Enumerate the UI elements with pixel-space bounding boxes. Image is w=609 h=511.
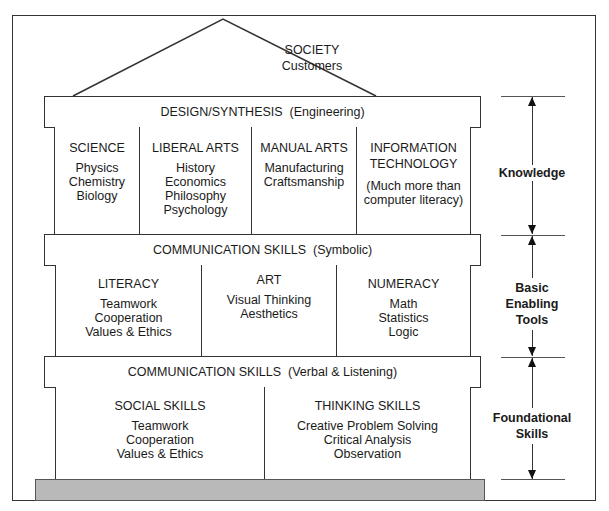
column-item: Teamwork [56, 297, 201, 311]
column-item: Craftsmanship [252, 175, 356, 189]
tools-label: Basic Enabling Tools [482, 278, 582, 330]
communication-symbolic-label: COMMUNICATION SKILLS (Symbolic) [153, 243, 372, 257]
foundation-base [35, 479, 485, 501]
column-item: Cooperation [56, 433, 264, 447]
column-head: LITERACY [56, 277, 201, 291]
knowledge-label: Knowledge [482, 165, 582, 181]
arrow-down-icon [528, 225, 536, 234]
column-item: (Much more than [357, 179, 470, 193]
column-head: SOCIAL SKILLS [56, 399, 264, 413]
column-science: SCIENCE Physics Chemistry Biology [55, 127, 139, 235]
column-head: LIBERAL ARTS [140, 141, 251, 155]
communication-symbolic-bar: COMMUNICATION SKILLS (Symbolic) [44, 234, 481, 266]
column-item: History [140, 161, 251, 175]
column-head: ART [202, 273, 336, 287]
column-head: MANUAL ARTS [252, 141, 356, 155]
arrow-up-icon [528, 236, 536, 245]
roof-subtitle: Customers [232, 59, 392, 74]
column-item: Psychology [140, 203, 251, 217]
column-item: Visual Thinking [202, 293, 336, 307]
column-numeracy: NUMERACY Math Statistics Logic [336, 265, 470, 357]
column-liberal-arts: LIBERAL ARTS History Economics Philosoph… [139, 127, 251, 235]
arrow-up-icon [528, 97, 536, 106]
tools-label-line: Enabling [482, 296, 582, 312]
arrow-down-icon [528, 470, 536, 479]
tick-line [501, 479, 565, 480]
tools-columns: LITERACY Teamwork Cooperation Values & E… [55, 265, 471, 357]
design-synthesis-label: DESIGN/SYNTHESIS (Engineering) [160, 105, 364, 119]
column-item: Economics [140, 175, 251, 189]
column-item: Math [337, 297, 470, 311]
column-manual-arts: MANUAL ARTS Manufacturing Craftsmanship [251, 127, 356, 235]
column-item: Teamwork [56, 419, 264, 433]
column-literacy: LITERACY Teamwork Cooperation Values & E… [56, 265, 201, 357]
column-art: ART Visual Thinking Aesthetics [201, 265, 336, 357]
design-synthesis-bar: DESIGN/SYNTHESIS (Engineering) [44, 96, 481, 128]
column-item: Chemistry [55, 175, 139, 189]
tools-label-line: Basic [482, 280, 582, 296]
roof-title: SOCIETY [232, 43, 392, 58]
column-item: Values & Ethics [56, 447, 264, 461]
column-item: computer literacy) [357, 193, 470, 207]
column-head-line: TECHNOLOGY [357, 157, 470, 171]
column-head-line: INFORMATION [357, 141, 470, 155]
column-head: NUMERACY [337, 277, 470, 291]
column-item: Cooperation [56, 311, 201, 325]
foundational-label-line: Foundational [482, 410, 582, 426]
foundational-label: Foundational Skills [482, 408, 582, 444]
column-item: Aesthetics [202, 307, 336, 321]
column-item: Manufacturing [252, 161, 356, 175]
column-item: Creative Problem Solving [265, 419, 470, 433]
column-head: SCIENCE [55, 141, 139, 155]
column-item: Logic [337, 325, 470, 339]
column-item: Observation [265, 447, 470, 461]
column-social-skills: SOCIAL SKILLS Teamwork Cooperation Value… [56, 387, 264, 480]
column-head: THINKING SKILLS [265, 399, 470, 413]
column-thinking-skills: THINKING SKILLS Creative Problem Solving… [264, 387, 470, 480]
tools-label-line: Tools [482, 312, 582, 328]
column-item: Statistics [337, 311, 470, 325]
arrow-up-icon [528, 358, 536, 367]
column-item: Values & Ethics [56, 325, 201, 339]
knowledge-columns: SCIENCE Physics Chemistry Biology LIBERA… [54, 127, 471, 235]
column-item: Physics [55, 161, 139, 175]
foundational-label-line: Skills [482, 426, 582, 442]
column-item: Philosophy [140, 189, 251, 203]
communication-verbal-label: COMMUNICATION SKILLS (Verbal & Listening… [128, 365, 397, 379]
column-item: Biology [55, 189, 139, 203]
column-information-technology: INFORMATION TECHNOLOGY (Much more than c… [356, 127, 470, 235]
arrow-down-icon [528, 347, 536, 356]
foundation-columns: SOCIAL SKILLS Teamwork Cooperation Value… [55, 387, 471, 480]
communication-verbal-bar: COMMUNICATION SKILLS (Verbal & Listening… [44, 356, 481, 388]
column-item: Critical Analysis [265, 433, 470, 447]
